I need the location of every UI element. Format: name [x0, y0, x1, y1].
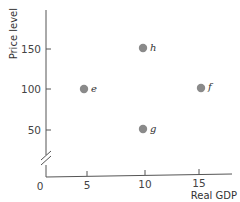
- x-tick-label-10: 10: [138, 178, 151, 190]
- svg-text:e: e: [91, 83, 97, 94]
- point-e: e: [80, 83, 97, 94]
- x-tick-label-5: 5: [84, 179, 91, 191]
- y-tick-label-50: 50: [28, 124, 41, 136]
- x-tick-label-15: 15: [192, 177, 205, 189]
- point-h: h: [139, 42, 157, 53]
- point-g: g: [139, 123, 157, 134]
- svg-text:f: f: [207, 81, 214, 92]
- point-f: f: [197, 81, 214, 92]
- svg-text:g: g: [150, 123, 156, 134]
- svg-text:h: h: [150, 42, 156, 53]
- scatter-chart: 150 100 50 0 5 10 15 Real GDP Price leve…: [0, 0, 240, 202]
- x-tick-label-0: 0: [37, 180, 44, 192]
- y-axis-title: Price level: [8, 8, 19, 59]
- y-tick-label-100: 100: [21, 83, 41, 95]
- y-tick-label-150: 150: [21, 43, 41, 55]
- x-axis-title: Real GDP: [191, 190, 237, 201]
